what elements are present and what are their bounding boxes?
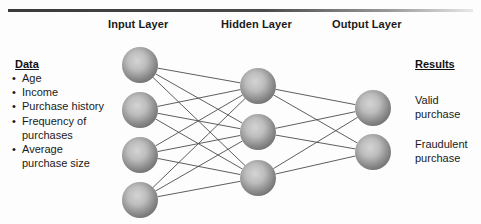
- network-node-input-0: [122, 47, 158, 83]
- connection-edge: [273, 117, 357, 168]
- connection-edge: [158, 181, 241, 196]
- connection-edge: [153, 77, 245, 165]
- network-node-input-3: [122, 182, 158, 218]
- network-node-hidden-1: [240, 114, 276, 150]
- network-node-output-0: [355, 90, 391, 126]
- connection-edge: [276, 156, 356, 174]
- connection-edge: [276, 135, 356, 149]
- network-nodes: [122, 47, 391, 218]
- connection-edge: [153, 99, 245, 188]
- network-node-output-1: [355, 134, 391, 170]
- network-node-input-1: [122, 92, 158, 128]
- connection-edge: [158, 68, 241, 83]
- network-node-input-2: [122, 137, 158, 173]
- network-graph: [0, 0, 481, 224]
- network-node-hidden-0: [240, 68, 276, 104]
- connection-edge: [276, 89, 356, 104]
- connection-edge: [156, 95, 243, 146]
- network-node-hidden-2: [240, 160, 276, 196]
- neural-network-diagram: Input Layer Hidden Layer Output Layer Da…: [0, 0, 481, 224]
